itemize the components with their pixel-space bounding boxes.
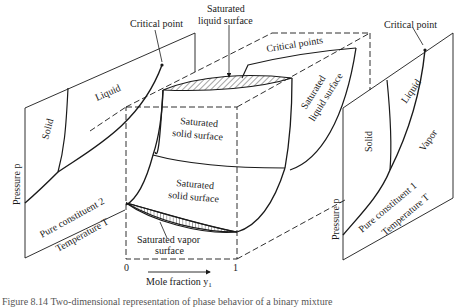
saturated-liquid-surface-top: [163, 76, 292, 91]
mole-fraction-axis-min: 0: [124, 262, 129, 273]
right-region-liquid: Liquid: [399, 77, 423, 105]
saturated-solid-upper-label-1: Saturated: [180, 115, 219, 129]
saturated-solid-upper-label-2: solid surface: [172, 127, 224, 142]
right-critical-point-label: Critical point: [384, 19, 437, 30]
left-axis-pressure: Pressure p: [11, 164, 22, 205]
mole-fraction-axis-label: Mole fraction y1: [146, 276, 212, 289]
left-region-liquid: Liquid: [93, 82, 122, 103]
left-critical-point-dot: [160, 63, 163, 66]
right-critical-point-dot: [423, 48, 426, 51]
left-solid-liquid-boundary: [58, 88, 68, 172]
mole-fraction-axis-label-text: Mole fraction y: [146, 276, 208, 287]
left-critical-point-label: Critical point: [130, 18, 183, 29]
critical-points-label: Critical points: [266, 34, 324, 54]
mole-fraction-axis-max: 1: [233, 262, 238, 273]
saturated-vapor-label-1: Saturated vapor: [137, 234, 201, 245]
right-region-vapor: Vapor: [417, 127, 440, 153]
solid-surface-separator: [153, 155, 285, 168]
front-right-curve: [285, 78, 292, 168]
saturated-liquid-top-label-1: Saturated: [207, 3, 245, 14]
saturated-solid-lower-label-2: solid surface: [168, 189, 220, 204]
right-region-solid: Solid: [363, 131, 374, 152]
mole-fraction-axis-label-sub: 1: [208, 281, 212, 289]
saturated-solid-lower-label-1: Saturated: [176, 177, 215, 191]
right-axis-pressure: Pressure p: [330, 199, 341, 240]
center-block-dashed-box: [90, 33, 370, 259]
saturated-liquid-top-label-2: liquid surface: [198, 15, 253, 26]
left-region-solid: Solid: [39, 117, 55, 140]
saturated-vapor-label-2: surface: [155, 245, 184, 256]
right-solid-liquid-boundary: [387, 80, 391, 170]
figure-caption: Figure 8.14 Two-dimensional representati…: [2, 296, 332, 307]
